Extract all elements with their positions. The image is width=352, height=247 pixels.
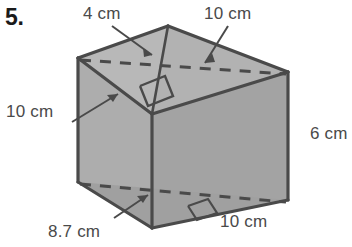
worksheet-figure-page: 5. [0, 0, 352, 247]
dimension-label-bottom-front-edge: 10 cm [220, 212, 267, 232]
dimension-label-triangle-height: 4 cm [83, 4, 121, 24]
dimension-label-prism-height: 6 cm [310, 124, 348, 144]
dimension-label-top-right-edge: 10 cm [204, 4, 251, 24]
triangular-prism-figure [0, 0, 352, 247]
dimension-label-left-edge: 10 cm [6, 102, 53, 122]
dimension-label-bottom-diagonal: 8.7 cm [48, 222, 100, 242]
